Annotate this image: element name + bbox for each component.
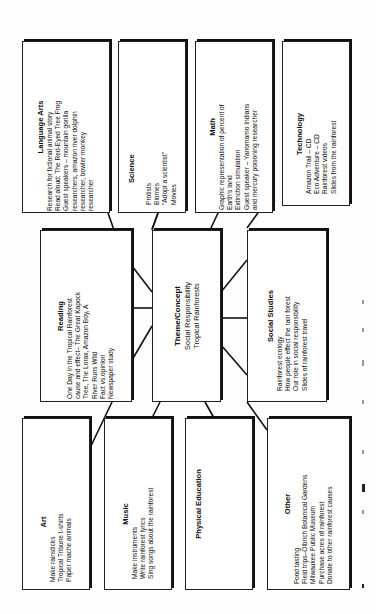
- box-title: Language Arts: [36, 43, 45, 211]
- box-title: Physical Education: [194, 424, 203, 584]
- box-title: Reading: [56, 233, 65, 399]
- box-line: Movies: [169, 85, 177, 205]
- box-line: Rainforest ecology: [276, 241, 284, 391]
- box-line: Slides of rainforest travel: [300, 241, 308, 391]
- box-reading: Reading One Day in the Tropical Rainfore…: [40, 230, 132, 402]
- box-title: Other: [283, 424, 292, 584]
- box-line: Biomes: [153, 85, 161, 205]
- box-line: Purchase acres of rainforest: [318, 424, 326, 584]
- box-line: Paper mache animals: [65, 462, 73, 582]
- box-line: Eco Adventure – CD: [313, 74, 321, 194]
- box-line: Research for fictional animal story: [46, 43, 54, 211]
- box-title: Math: [208, 44, 217, 210]
- box-line: and mercury poisoning researcher: [251, 44, 259, 210]
- caption-fragment: [362, 300, 368, 600]
- box-line: Read aloud: The Red-Eyed Tree Frog: [55, 43, 63, 211]
- box-line: Fact vs.opinion: [99, 233, 107, 399]
- box-line: River Runs Wild: [91, 233, 99, 399]
- box-line: Milwaukee Public Museum: [309, 424, 317, 584]
- box-theme-concept: Theme/Concept Social Responsibility Trop…: [152, 230, 221, 402]
- box-social-studies: Social Studies Rainforest ecology How pe…: [247, 230, 327, 402]
- center-title: Theme/Concept: [173, 246, 182, 386]
- box-line: Rainforest videos: [321, 74, 329, 194]
- box-line: researchers, amazon river dolphin: [71, 43, 79, 211]
- box-line: Donate to other rainforest causes: [326, 424, 334, 584]
- box-line: Tropical Tribune t-shirts: [57, 462, 65, 582]
- box-line: Protists: [145, 85, 153, 205]
- box-line: Earth's land: [227, 44, 235, 210]
- box-line: Guest speaker – Yanomamo Indians: [243, 44, 251, 210]
- box-line: Make instruments: [131, 449, 139, 579]
- box-line: Guest speakers – mountain gorilla: [63, 43, 71, 211]
- box-line: Slides from the rainforest: [329, 74, 337, 194]
- box-line: cause and effect– The Great Kapock: [75, 233, 83, 399]
- box-line: Tree, The Lorax, Amazon Boy, A: [83, 233, 91, 399]
- box-line: Write rainforest lyrics: [139, 449, 147, 579]
- box-line: Food tasting: [293, 424, 301, 584]
- center-line: Social Responsibility: [183, 246, 192, 386]
- box-music: Music Make instruments Write rainforest …: [104, 418, 172, 590]
- box-science: Science Protists Biomes "Adopt a scienti…: [118, 41, 186, 213]
- box-line: Sing songs about the rainforest: [147, 449, 155, 579]
- box-line: Graphic representation of percent of: [218, 44, 226, 210]
- box-line: Our role in social responsibility: [292, 241, 300, 391]
- box-math: Math Graphic representation of percent o…: [195, 41, 273, 213]
- box-line: Extinction simulation: [235, 44, 243, 210]
- box-title: Social Studies: [266, 241, 275, 391]
- box-line: "Adopt a scientist": [161, 85, 169, 205]
- box-line: Newspaper study: [107, 233, 115, 399]
- box-line: Field trips–Olbrich Botanical Gardens: [301, 424, 309, 584]
- box-line: One Day in the Tropical Rainforest: [66, 233, 74, 399]
- box-line: Make rainsticks: [49, 462, 57, 582]
- box-title: Science: [127, 85, 136, 205]
- box-physical-education: Physical Education: [185, 418, 253, 590]
- box-title: Art: [39, 462, 48, 582]
- box-technology: Technology Amazon Trail – CD Eco Adventu…: [282, 41, 350, 206]
- box-language-arts: Language Arts Research for fictional ani…: [22, 41, 110, 213]
- box-line: researcher: [87, 43, 95, 211]
- box-art: Art Make rainsticks Tropical Tribune t-s…: [22, 418, 90, 590]
- box-other: Other Food tasting Field trips–Olbrich B…: [267, 418, 350, 590]
- box-line: researcher, bowler monkey: [79, 43, 87, 211]
- box-line: Amazon Trail – CD: [305, 74, 313, 194]
- center-line: Tropical Rainforests: [192, 246, 201, 386]
- box-title: Music: [121, 449, 130, 579]
- box-title: Technology: [295, 74, 304, 194]
- box-line: How people effect the rain forest: [284, 241, 292, 391]
